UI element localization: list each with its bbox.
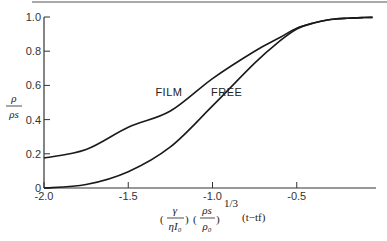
x-label-paren-close-2: ): [216, 213, 220, 226]
series-label-film: FILM: [155, 86, 182, 98]
y-tick-label: 0.8: [26, 45, 41, 57]
x-label-paren-close-1: ): [185, 213, 189, 226]
x-label-gamma: γ: [173, 204, 178, 216]
x-label-paren-open-1: (: [160, 213, 164, 226]
series-line-film: [44, 17, 373, 158]
y-tick-label: 0.2: [26, 148, 41, 160]
y-tick-label: 0.4: [26, 114, 41, 126]
x-tick-label: -0.5: [287, 190, 306, 202]
x-label-rho-0: ρ₀: [201, 220, 211, 232]
x-label-exponent: 1/3: [224, 197, 239, 209]
series-line-free: [44, 17, 373, 188]
x-label-paren-open-2: (: [193, 213, 197, 226]
y-label-denominator: ρs: [8, 108, 19, 120]
x-axis-label: ( γ ηI₀ ) ( ρs ρ₀ ) 1/3 (t−tf): [160, 197, 266, 232]
x-tick-label: -1.5: [119, 190, 138, 202]
y-tick-label: 0.6: [26, 79, 41, 91]
x-tick-label: -1.0: [203, 190, 222, 202]
x-label-eta: ηI₀: [169, 220, 182, 232]
series-label-free: FREE: [211, 86, 242, 98]
y-axis-label: ρ ρs: [6, 92, 22, 120]
chart: 00.20.40.60.81.0-2.0-1.5-1.0-0.5 FILMFRE…: [0, 0, 387, 241]
x-tick-label: -2.0: [35, 190, 54, 202]
y-tick-label: 1.0: [26, 11, 41, 23]
x-label-rho-s: ρs: [201, 204, 212, 216]
y-label-numerator: ρ: [10, 92, 16, 104]
x-label-time: (t−tf): [242, 211, 266, 224]
